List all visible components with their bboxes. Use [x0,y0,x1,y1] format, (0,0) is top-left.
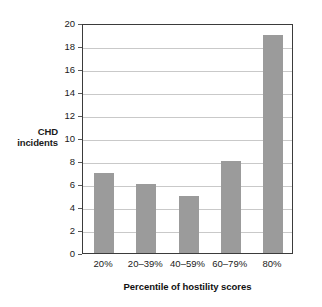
x-tick-label: 80% [242,259,302,269]
y-tick-label: 0 [51,249,75,259]
y-tick-label: 14 [51,88,75,98]
y-tick-label: 20 [51,19,75,29]
y-tick-label: 4 [51,203,75,213]
bars-group [83,25,292,253]
bar [221,161,241,253]
bar [94,173,114,254]
y-tick-label: 12 [51,111,75,121]
bar [136,184,156,253]
y-tick-label: 2 [51,226,75,236]
y-tick-label: 18 [51,42,75,52]
y-tick-label: 10 [51,134,75,144]
x-axis-title: Percentile of hostility scores [82,281,293,292]
y-tick-label: 16 [51,65,75,75]
bar-chart-figure: CHD incidents 02468101214161820 20%20–39… [0,0,322,307]
y-tick-label: 8 [51,157,75,167]
bar [179,196,199,254]
y-tick-label: 6 [51,180,75,190]
plot-area [82,24,293,254]
bar [263,35,283,254]
